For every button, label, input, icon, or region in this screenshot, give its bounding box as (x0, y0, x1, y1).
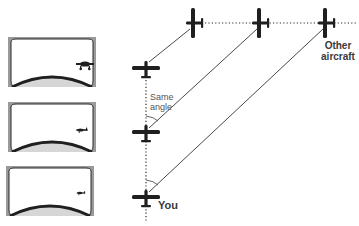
other-aircraft-icon-3 (318, 8, 335, 38)
cockpit-view-3 (6, 166, 94, 218)
angle-arc-2 (146, 180, 158, 185)
angle-arc-1 (146, 116, 158, 121)
own-aircraft-icon-3 (132, 190, 160, 207)
sight-line-1 (149, 29, 190, 62)
cockpit-view-1 (8, 37, 96, 89)
sight-line-2 (149, 29, 257, 128)
own-aircraft-icon-1 (132, 61, 160, 78)
same-angle-label: Same angle (150, 92, 184, 112)
own-aircraft-icon-2 (132, 125, 160, 142)
other-aircraft-icon-2 (252, 8, 269, 38)
other-aircraft-label: Other aircraft (318, 40, 358, 62)
you-label: You (158, 199, 178, 211)
cockpit-view-2 (8, 102, 96, 154)
other-aircraft-icon-1 (186, 8, 203, 38)
collision-diagram (0, 0, 359, 226)
